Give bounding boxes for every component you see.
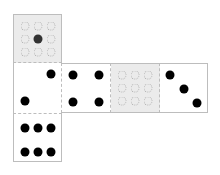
face-bottom <box>13 113 62 162</box>
face-back <box>160 63 208 113</box>
pip <box>180 85 189 94</box>
pip <box>47 148 56 157</box>
pip <box>21 124 30 133</box>
pip <box>21 148 30 157</box>
face-left <box>13 63 62 113</box>
pip <box>69 71 78 80</box>
pip-slot <box>118 71 127 80</box>
pip-slot <box>118 84 127 93</box>
pip <box>47 124 56 133</box>
pip <box>95 71 104 80</box>
pip <box>34 124 43 133</box>
pip-slot <box>131 97 140 106</box>
pip <box>69 98 78 107</box>
pip-slot <box>21 22 30 31</box>
pip-slot <box>144 97 153 106</box>
pip-slot <box>131 84 140 93</box>
pip-slot <box>144 84 153 93</box>
pip-slot <box>34 48 43 57</box>
pip-slot <box>144 71 153 80</box>
face-right <box>111 63 160 113</box>
pip-slot <box>47 22 56 31</box>
pip-slot <box>118 97 127 106</box>
pip-slot <box>34 22 43 31</box>
pip-marked <box>34 35 43 44</box>
pip-slot <box>131 71 140 80</box>
pip <box>95 98 104 107</box>
pip <box>21 97 30 106</box>
pip-slot <box>21 48 30 57</box>
pip-slot <box>21 35 30 44</box>
pip-slot <box>47 35 56 44</box>
pip <box>166 71 175 80</box>
pip <box>47 70 56 79</box>
face-front <box>62 63 111 113</box>
face-top <box>13 14 62 63</box>
pip <box>34 148 43 157</box>
pip-slot <box>47 48 56 57</box>
pip <box>193 99 202 108</box>
